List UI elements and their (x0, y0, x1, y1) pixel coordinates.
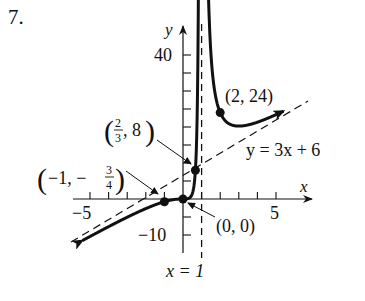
y-axis-label: y (163, 20, 173, 39)
svg-text:2: 2 (115, 116, 121, 130)
x-axis-label: x (299, 177, 308, 196)
y-tick-label-40: 40 (154, 45, 172, 65)
point-origin (179, 195, 188, 204)
y-tick-label-neg10: −10 (138, 225, 166, 245)
svg-text:): ) (145, 114, 155, 148)
label-point-2-24: (2, 24) (225, 86, 273, 107)
svg-text:−1, −: −1, − (48, 168, 86, 188)
y-ticks (183, 55, 191, 235)
svg-text:, 8: , 8 (123, 120, 141, 140)
oblique-asymptote-label: y = 3x + 6 (246, 140, 320, 160)
point-2-24 (216, 108, 225, 117)
svg-text:(: ( (104, 114, 114, 148)
label-point-neg1: ( −1, − 3 4 ) (37, 162, 125, 196)
svg-text:4: 4 (106, 178, 112, 192)
svg-text:3: 3 (106, 163, 112, 177)
y-axis (183, 26, 191, 253)
x-tick-label-5: 5 (270, 203, 279, 223)
svg-text:3: 3 (115, 131, 121, 145)
point-neg1-neg-three-quarters (160, 197, 169, 206)
graph: x y −5 5 40 −10 x = 1 y = 3x + 6 (2, 24)… (0, 0, 365, 301)
svg-text:(: ( (37, 162, 47, 196)
pointer-neg1 (126, 171, 158, 194)
point-two-thirds-8 (191, 166, 200, 175)
x-tick-label-neg5: −5 (72, 203, 91, 223)
pointer-two-thirds-8 (157, 140, 191, 164)
vertical-asymptote-label: x = 1 (165, 261, 204, 281)
label-point-two-thirds-8: ( 2 3 , 8 ) (104, 114, 155, 148)
curve-right-branch (205, 0, 284, 126)
svg-text:): ) (115, 162, 125, 196)
label-point-origin: (0, 0) (216, 216, 255, 237)
